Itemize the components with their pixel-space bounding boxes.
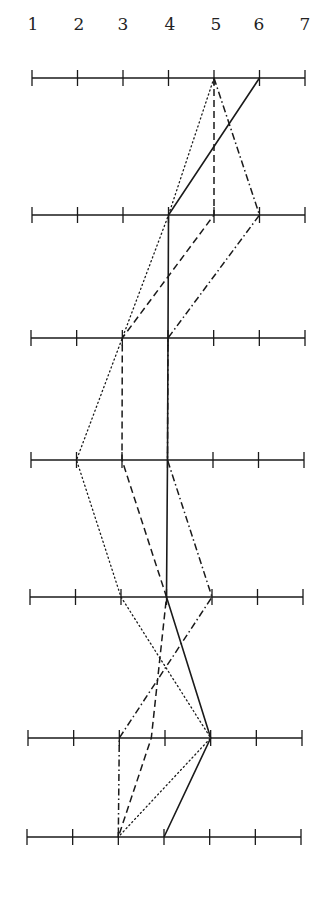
scale-axis xyxy=(28,730,302,746)
scale-label: 6 xyxy=(254,14,265,34)
scale-label: 4 xyxy=(165,14,176,34)
scale-labels: 1234567 xyxy=(28,14,311,34)
profile-chart: 1234567 xyxy=(0,0,324,914)
scale-axis xyxy=(32,70,305,86)
series-line-dotted xyxy=(77,78,215,837)
scale-axes xyxy=(27,70,305,845)
scale-label: 2 xyxy=(74,14,85,34)
series-line-solid xyxy=(164,78,260,837)
series-line-dashed xyxy=(118,78,214,837)
scale-label: 3 xyxy=(118,14,129,34)
scale-label: 5 xyxy=(211,14,222,34)
scale-label: 7 xyxy=(300,14,311,34)
scale-label: 1 xyxy=(28,14,39,34)
series-lines xyxy=(77,78,260,837)
series-line-dash-dot xyxy=(118,78,259,837)
